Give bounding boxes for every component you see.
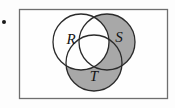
venn-diagram-svg: R S T — [0, 0, 175, 108]
set-label-R: R — [65, 31, 75, 47]
shaded-region — [0, 0, 175, 108]
set-label-S: S — [115, 29, 123, 45]
figure-container: R S T — [0, 0, 175, 108]
venn-diagram: R S T — [0, 0, 175, 108]
